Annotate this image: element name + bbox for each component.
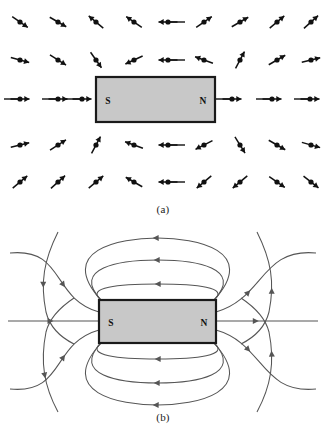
compass-needle [50, 140, 66, 150]
needle-pivot-dot [274, 179, 279, 184]
compass-needle [302, 56, 320, 62]
needle-pivot-dot [307, 96, 312, 101]
compass-needle [73, 96, 92, 102]
needle-pivot-dot [269, 96, 274, 101]
field-line-arrowhead [59, 281, 65, 288]
compass-needle [125, 141, 143, 148]
needle-pivot-dot [79, 96, 84, 101]
compass-needle [236, 52, 245, 69]
needle-pivot-dot [55, 142, 60, 147]
field-line [10, 253, 99, 312]
needle-pivot-dot [165, 142, 170, 147]
field-line [241, 298, 272, 412]
needle-arrowhead [62, 96, 67, 102]
needle-arrowhead [159, 142, 164, 148]
needle-arrowhead [24, 96, 29, 102]
needle-pivot-dot [237, 57, 242, 62]
compass-needle [91, 52, 102, 68]
compass-needle [195, 56, 213, 63]
needle-pivot-dot [237, 179, 242, 184]
needle-pivot-dot [93, 57, 98, 62]
needle-arrowhead [276, 96, 281, 102]
field-line-arrowhead [155, 356, 161, 362]
compass-needle [159, 19, 178, 25]
needle-pivot-dot [274, 142, 279, 147]
needle-pivot-dot [229, 96, 234, 101]
field-line-arrowhead [269, 288, 275, 294]
needle-pivot-dot [17, 142, 22, 147]
compass-needle [13, 176, 28, 188]
field-line [85, 238, 229, 300]
compass-needle [89, 176, 104, 188]
compass-needle [11, 57, 29, 64]
panel-b-caption: (b) [0, 411, 326, 423]
field-line-arrowhead [155, 281, 161, 287]
needle-pivot-dot [55, 96, 60, 101]
needle-arrowhead [159, 179, 164, 185]
compass-needle [49, 96, 68, 102]
compass-needle [196, 17, 212, 28]
compass-needle [269, 55, 285, 65]
compass-needle [50, 55, 66, 65]
needle-arrowhead [314, 56, 320, 62]
panel-a-svg: SN [0, 0, 326, 220]
field-line-arrowhead [253, 318, 259, 324]
panel-b-svg: SN [0, 220, 326, 433]
needle-pivot-dot [131, 19, 136, 24]
compass-needle [51, 176, 65, 189]
needle-pivot-dot [93, 19, 98, 24]
compass-needle [197, 176, 212, 188]
compass-needle [270, 16, 285, 28]
field-line-arrowhead [153, 402, 159, 408]
needle-arrowhead [86, 96, 91, 102]
field-line-arrowhead [41, 372, 47, 378]
compass-needle [196, 141, 213, 150]
compass-needle [304, 16, 318, 29]
compass-needle [126, 17, 142, 28]
magnet-body [96, 77, 215, 122]
compass-needle [125, 56, 142, 64]
needle-arrowhead [236, 96, 241, 102]
field-line [216, 253, 316, 312]
compass-needle [232, 17, 248, 27]
field-line [10, 330, 99, 389]
needle-pivot-dot [201, 57, 206, 62]
needle-pivot-dot [308, 19, 313, 24]
field-line-arrowhead [269, 351, 275, 357]
field-line [216, 330, 316, 389]
needle-pivot-dot [237, 19, 242, 24]
needle-pivot-dot [165, 57, 170, 62]
compass-needle [92, 137, 101, 154]
north-pole-label: N [200, 96, 207, 106]
needle-pivot-dot [308, 57, 313, 62]
panel-b-field-lines: SN [0, 220, 326, 433]
compass-needle [159, 142, 178, 148]
needle-pivot-dot [237, 142, 242, 147]
needle-pivot-dot [131, 57, 136, 62]
needle-pivot-dot [17, 57, 22, 62]
compass-needle [11, 96, 30, 102]
field-line-arrowhead [154, 257, 160, 263]
compass-needle [304, 176, 319, 188]
compass-needle [223, 96, 242, 102]
field-line [97, 284, 218, 300]
needle-pivot-dot [131, 142, 136, 147]
compass-needle [159, 57, 178, 63]
needle-pivot-dot [55, 57, 60, 62]
compass-needle [301, 96, 320, 102]
field-line-arrowhead [153, 235, 159, 241]
magnet-bar: SN [99, 300, 216, 343]
compass-needle [159, 179, 178, 185]
south-pole-label: S [108, 318, 113, 328]
field-line [43, 298, 74, 412]
compass-needle [11, 141, 29, 147]
needle-arrowhead [23, 58, 29, 64]
needle-pivot-dot [17, 19, 22, 24]
compass-needle [263, 96, 282, 102]
needle-pivot-dot [17, 179, 22, 184]
needle-pivot-dot [274, 19, 279, 24]
field-line [97, 343, 218, 359]
needle-pivot-dot [308, 142, 313, 147]
needle-arrowhead [159, 19, 164, 25]
needle-arrowhead [23, 141, 29, 147]
